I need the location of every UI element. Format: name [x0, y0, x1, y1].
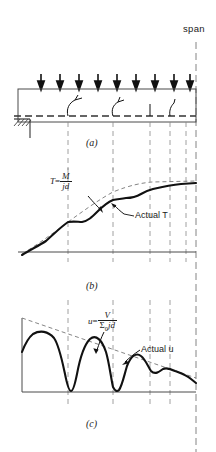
panel-c-label: (c) — [86, 418, 97, 429]
flexural-cracks — [67, 95, 175, 116]
panel-b-tension — [18, 168, 196, 262]
actual-t-leader — [114, 205, 124, 214]
t-formula-denominator: jd — [60, 182, 72, 191]
actual-t-leader-tail — [124, 214, 134, 216]
panel-a-label: (a) — [86, 137, 98, 148]
panel-b-label: (b) — [86, 280, 98, 291]
u-formula-fraction: VΣ0jd — [98, 311, 118, 333]
u-formula-leader — [97, 332, 104, 350]
uniform-load-arrows — [38, 74, 193, 90]
actual-u-leader — [125, 350, 140, 362]
figure-drawing — [0, 0, 216, 452]
t-formula-fraction: Mjd — [60, 172, 72, 192]
actual-t-label: Actual T — [135, 210, 168, 220]
u-formula-den-rest: jd — [108, 320, 115, 330]
figure-root: span (a) T=Mjd Actual T (b) u=VΣ0jd Actu… — [0, 0, 216, 452]
u-formula: u=VΣ0jd — [88, 311, 117, 333]
t-formula: T=Mjd — [50, 172, 72, 192]
centerline-span-label: span — [183, 23, 205, 34]
panel-a-beam — [14, 74, 196, 170]
beam-outline — [18, 89, 196, 122]
u-formula-denominator: Σ0jd — [98, 321, 118, 333]
actual-u-label: Actual u — [141, 344, 174, 354]
t-formula-leader — [88, 196, 101, 210]
